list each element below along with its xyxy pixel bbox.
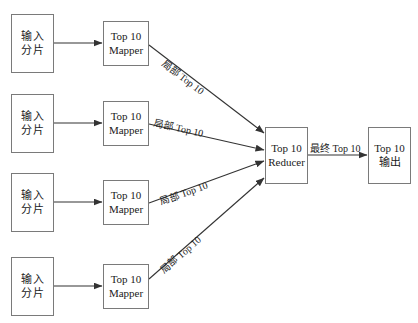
node-input-split-1[interactable]: 输入 分片 (11, 14, 54, 73)
node-mapper-2[interactable]: Top 10 Mapper (103, 101, 149, 146)
node-mapper-4-line2: Mapper (109, 287, 143, 301)
edge-label-final: 最终 Top 10 (310, 140, 360, 155)
node-mapper-4-line1: Top 10 (111, 273, 142, 287)
node-output-line2: 输出 (379, 156, 401, 170)
node-input-split-4[interactable]: 输入 分片 (11, 257, 54, 316)
node-input-split-2[interactable]: 输入 分片 (11, 94, 54, 153)
node-mapper-2-line1: Top 10 (111, 110, 142, 124)
node-mapper-1-line2: Mapper (109, 44, 143, 58)
node-mapper-2-line2: Mapper (109, 124, 143, 138)
node-mapper-3-line2: Mapper (109, 203, 143, 217)
node-mapper-1-line1: Top 10 (111, 30, 142, 44)
node-mapper-1[interactable]: Top 10 Mapper (103, 21, 149, 66)
node-input-split-4-line1: 输入 (21, 273, 44, 287)
node-input-split-4-line2: 分片 (21, 287, 44, 301)
node-input-split-1-line1: 输入 (21, 30, 44, 44)
node-mapper-3-line1: Top 10 (111, 189, 142, 203)
node-input-split-3-line1: 输入 (21, 189, 44, 203)
edge-layer (0, 0, 418, 323)
node-reducer[interactable]: Top 10 Reducer (265, 127, 308, 184)
node-input-split-3[interactable]: 输入 分片 (11, 173, 54, 232)
node-output[interactable]: Top 10 输出 (368, 127, 411, 184)
node-input-split-3-line2: 分片 (21, 203, 44, 217)
node-output-line1: Top 10 (374, 142, 405, 156)
node-input-split-2-line2: 分片 (21, 124, 44, 138)
node-mapper-3[interactable]: Top 10 Mapper (103, 180, 149, 225)
diagram-canvas: 输入 分片 输入 分片 输入 分片 输入 分片 Top 10 Mapper To… (0, 0, 418, 323)
node-reducer-line1: Top 10 (271, 142, 302, 156)
node-mapper-4[interactable]: Top 10 Mapper (103, 264, 149, 309)
node-reducer-line2: Reducer (268, 156, 305, 170)
node-input-split-2-line1: 输入 (21, 110, 44, 124)
node-input-split-1-line2: 分片 (21, 44, 44, 58)
